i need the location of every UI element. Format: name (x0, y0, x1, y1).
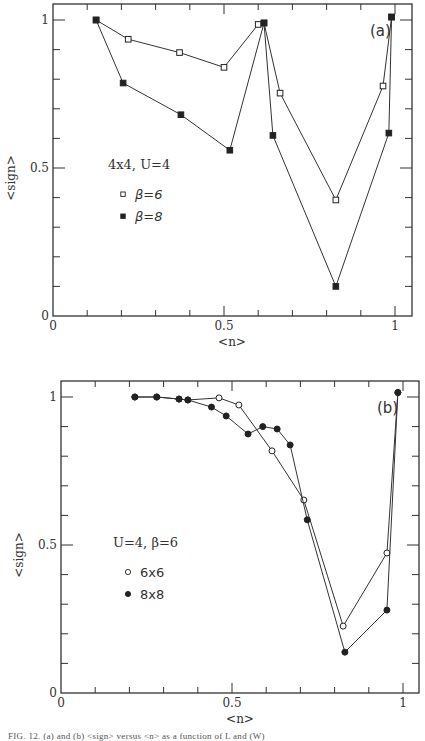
series-line (135, 393, 398, 653)
legend-title: U=4, β=6 (113, 535, 178, 550)
data-point (386, 130, 392, 136)
y-tick-label: 1 (41, 13, 49, 27)
y-tick-label: 0.5 (30, 161, 49, 175)
data-point (178, 112, 184, 118)
data-point (177, 50, 183, 56)
legend-title: 4x4, U=4 (108, 157, 170, 172)
x-tick-label: 1 (399, 696, 407, 710)
legend: 4x4, U=4β=6β=8 (108, 157, 170, 224)
data-point (384, 550, 390, 556)
data-point (333, 197, 339, 203)
chart-panel-b: 00.5100.51<n><sign>(b)U=4, β=66x68x8 (12, 381, 419, 726)
data-point (227, 147, 233, 153)
y-tick-label: 0.5 (38, 538, 57, 552)
figure: 00.5100.51<n><sign>(a)4x4, U=4β=6β=800.5… (0, 0, 425, 741)
x-axis-label: <n> (226, 712, 254, 726)
legend-label: β=8 (134, 209, 162, 224)
series-line (96, 17, 391, 200)
data-point (255, 22, 261, 28)
y-tick-label: 0 (49, 686, 57, 700)
x-axis-label: <n> (218, 335, 246, 349)
data-point (380, 83, 386, 89)
chart-panel-a: 00.5100.51<n><sign>(a)4x4, U=4β=6β=8 (4, 4, 412, 349)
figure-caption: FIG. 12. (a) and (b) <sign> versus <n> a… (8, 731, 425, 741)
x-tick-label: 0.5 (214, 319, 233, 333)
data-point (120, 80, 126, 86)
data-point (261, 20, 267, 26)
y-tick-label: 0 (41, 309, 49, 323)
legend-marker-icon (121, 192, 125, 196)
y-axis-label: <sign> (12, 532, 26, 578)
panel-label: (b) (377, 399, 398, 417)
data-point (236, 402, 242, 408)
data-point (125, 36, 131, 42)
data-point (154, 394, 160, 400)
y-axis-label: <sign> (4, 155, 18, 201)
x-tick-label: 1 (391, 319, 399, 333)
legend-label: β=6 (134, 187, 162, 202)
data-point (342, 649, 348, 655)
data-point (216, 395, 222, 401)
data-point (270, 133, 276, 139)
legend-marker-icon (125, 591, 130, 596)
data-point (132, 394, 138, 400)
panel-label: (a) (370, 22, 391, 40)
data-point (93, 17, 99, 23)
data-point (395, 390, 401, 396)
legend: U=4, β=66x68x8 (113, 535, 178, 602)
x-tick-label: 0 (49, 319, 57, 333)
x-tick-label: 0.5 (222, 696, 241, 710)
plot-frame (53, 4, 412, 316)
data-point (208, 404, 214, 410)
x-tick-label: 0 (57, 696, 65, 710)
data-point (333, 284, 339, 290)
data-point (223, 413, 229, 419)
data-point (185, 397, 191, 403)
data-point (274, 426, 280, 432)
legend-label: 8x8 (140, 587, 164, 602)
data-point (304, 517, 310, 523)
data-point (340, 623, 346, 629)
legend-label: 6x6 (140, 565, 164, 580)
data-point (389, 14, 395, 20)
legend-marker-icon (121, 214, 125, 218)
data-point (384, 607, 390, 613)
data-point (277, 90, 283, 96)
data-point (176, 396, 182, 402)
data-point (269, 448, 275, 454)
series-line (96, 17, 391, 286)
y-tick-label: 1 (49, 390, 57, 404)
data-point (221, 65, 227, 71)
data-point (287, 442, 293, 448)
legend-marker-icon (125, 569, 130, 574)
data-point (245, 431, 251, 437)
data-point (260, 424, 266, 430)
